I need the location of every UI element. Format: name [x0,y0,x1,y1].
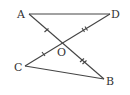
geometry-figure: A D O C B [0,0,130,95]
segment-cb [25,66,104,79]
label-o: O [57,46,66,59]
label-c: C [14,61,22,74]
label-b: B [106,75,114,88]
segment-ab [29,14,104,79]
label-d: D [111,8,120,21]
label-a: A [16,8,26,21]
